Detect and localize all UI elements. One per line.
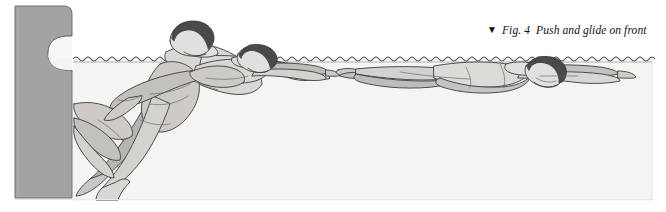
pool-wall (15, 6, 72, 198)
down-triangle-icon: ▼ (487, 21, 497, 39)
figure-number: Fig. 4 (502, 24, 530, 36)
figure-title: Push and glide on front (536, 24, 646, 36)
figure-caption: ▼Fig. 4Push and glide on front (487, 21, 662, 39)
figure-push-and-glide: ▼Fig. 4Push and glide on front (0, 0, 666, 212)
panel-bottom-edge (14, 199, 654, 200)
